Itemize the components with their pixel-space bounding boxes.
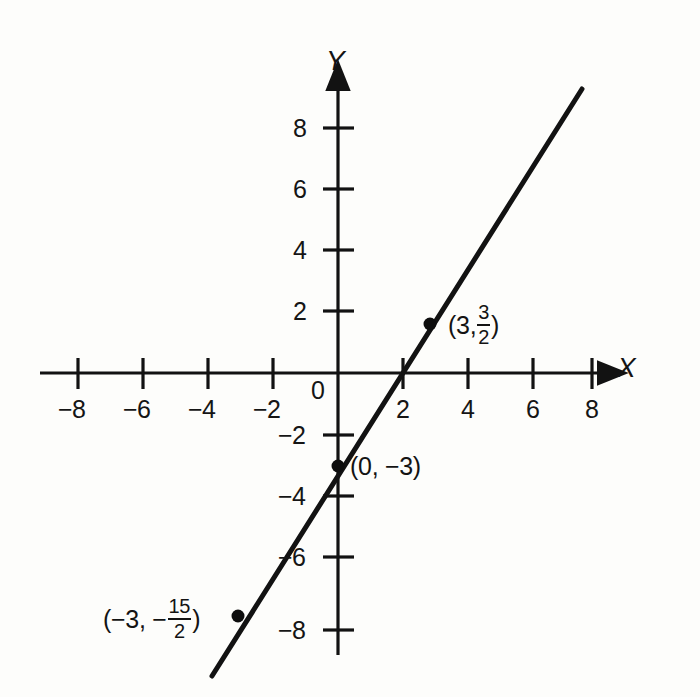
point-label-0-neg3: (0, −3)	[350, 452, 421, 481]
point-label-prefix: (3,	[448, 311, 476, 340]
point-label-neg3-neg-fifteen-halves: (−3, − 15 2 )	[103, 597, 200, 642]
point-label-text: (0, −3)	[350, 452, 421, 481]
y-axis-label: Y	[326, 45, 345, 77]
x-tick-label-neg4: −4	[188, 395, 216, 424]
data-point-0-neg3	[332, 460, 345, 473]
y-tick-label-8: 8	[293, 114, 306, 143]
point-label-3-three-halves: (3, 3 2 )	[448, 303, 499, 348]
x-tick-label-6: 6	[526, 395, 539, 424]
point-label-suffix: )	[491, 311, 499, 340]
origin-label: 0	[311, 376, 324, 405]
fraction-denominator: 2	[477, 326, 490, 348]
x-tick-label-2: 2	[396, 395, 409, 424]
point-label-prefix: (−3, −	[103, 605, 167, 634]
data-point-neg3-neg7.5	[232, 610, 245, 623]
graph-figure: −8 −6 −4 −2 0 2 4 6 8 8 6 4 2 −2 −4 −6 −…	[0, 0, 700, 697]
x-axis-label: X	[617, 352, 636, 384]
y-tick-label-neg8: −8	[278, 616, 306, 645]
fraction-numerator: 15	[168, 596, 192, 620]
fraction-numerator: 3	[477, 302, 490, 326]
y-tick-label-6: 6	[293, 175, 306, 204]
x-tick-label-neg8: −8	[58, 395, 86, 424]
plotted-line	[212, 89, 582, 676]
y-tick-label-neg4: −4	[278, 482, 306, 511]
x-tick-label-neg2: −2	[253, 395, 281, 424]
fraction-denominator: 2	[173, 620, 186, 642]
coordinate-plane-svg	[0, 0, 700, 697]
fraction-fifteen-halves: 15 2	[168, 596, 192, 641]
y-tick-label-neg2: −2	[278, 421, 306, 450]
point-label-suffix: )	[192, 605, 200, 634]
y-tick-label-4: 4	[293, 236, 306, 265]
x-tick-label-neg6: −6	[123, 395, 151, 424]
data-point-3-1.5	[424, 318, 437, 331]
fraction-three-halves: 3 2	[477, 302, 490, 347]
y-tick-label-2: 2	[293, 297, 306, 326]
y-tick-label-neg6: −6	[278, 543, 306, 572]
x-tick-label-4: 4	[461, 395, 474, 424]
x-tick-label-8: 8	[585, 395, 598, 424]
